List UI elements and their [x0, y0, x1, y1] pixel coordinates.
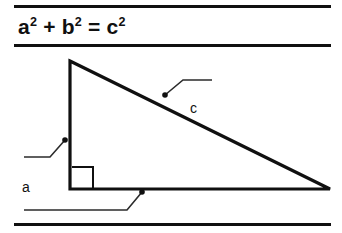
leader-line-a: [24, 140, 65, 157]
side-label-a: a: [22, 180, 30, 194]
formula-term-b-base: b: [62, 15, 75, 38]
divider-rule-top: [14, 5, 331, 8]
leader-line-c: [165, 80, 212, 95]
right-angle-marker-icon: [72, 167, 93, 188]
pythagorean-formula: a2 + b2 = c2: [18, 14, 126, 40]
diagram-page: a2 + b2 = c2 a b c: [0, 0, 342, 233]
formula-term-c-exponent: 2: [118, 15, 125, 29]
side-label-c: c: [190, 101, 197, 115]
formula-operator-plus: +: [43, 15, 55, 38]
leader-dot-c: [162, 92, 168, 98]
formula-term-c-base: c: [106, 15, 118, 38]
divider-rule-bottom: [14, 223, 331, 226]
formula-operator-equals: =: [88, 15, 100, 38]
right-triangle-figure: a b c: [0, 45, 342, 223]
leader-dot-b: [139, 189, 145, 195]
leader-line-b: [24, 192, 142, 210]
leader-dot-a: [62, 137, 68, 143]
formula-term-a-exponent: 2: [30, 15, 37, 29]
formula-term-a-base: a: [18, 15, 30, 38]
triangle-svg: [0, 45, 342, 223]
formula-term-b-exponent: 2: [75, 15, 82, 29]
